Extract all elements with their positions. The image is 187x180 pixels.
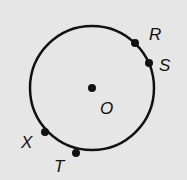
point-s [145, 59, 153, 67]
point-x [41, 128, 49, 136]
label-x: X [20, 133, 33, 152]
label-o: O [100, 99, 113, 118]
center-point-o [88, 84, 96, 92]
label-t: T [54, 157, 66, 176]
point-r [131, 39, 139, 47]
label-s: S [159, 56, 171, 75]
circle-diagram: O R S X T [0, 0, 187, 180]
point-t [72, 149, 80, 157]
label-r: R [149, 25, 161, 44]
